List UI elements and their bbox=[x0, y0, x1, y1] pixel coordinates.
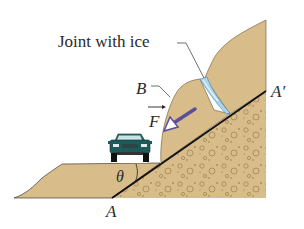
car-icon bbox=[108, 134, 152, 163]
force-f-label: F bbox=[149, 113, 159, 130]
b-leader-line bbox=[151, 86, 170, 97]
block-b-label: B bbox=[136, 80, 146, 97]
joint-with-ice-label: Joint with ice bbox=[58, 33, 150, 50]
point-a-prime-label: A′ bbox=[271, 83, 285, 100]
rock-slide-diagram: Joint with ice B F θ A A′ bbox=[0, 0, 304, 229]
angle-theta-label: θ bbox=[116, 169, 124, 185]
vector-arrow-icon bbox=[148, 105, 166, 109]
joint-leader-line bbox=[177, 43, 204, 78]
point-a-label: A bbox=[106, 203, 116, 220]
